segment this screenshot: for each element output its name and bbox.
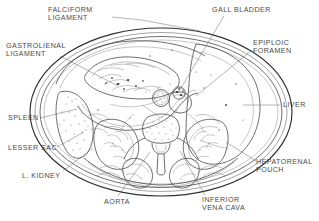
label-gastrolienal-ligament: GASTROLIENAL LIGAMENT [6,42,66,59]
leader-gall-bladder [178,16,224,93]
left-kidney [94,119,139,169]
leader-inferior-vena-cava [180,151,205,195]
label-inferior-vena-cava: INFERIOR VENA CAVA [202,196,245,213]
leader-gastrolienal-ligament [60,56,118,86]
label-liver: LIVER [283,101,306,109]
label-falciform-ligament: FALCIFORM LIGAMENT [48,6,93,23]
label-l-kidney: L. KIDNEY [22,172,60,180]
label-epiploic-foramen: EPIPLOIC FORAMEN [253,39,292,56]
anatomical-figure: FALCIFORM LIGAMENT GALL BLADDER GASTROLI… [0,0,319,221]
vertebra [124,114,198,175]
label-gall-bladder: GALL BLADDER [212,6,271,14]
liver-region [186,44,260,164]
spleen-organ [56,91,93,158]
leader-epiploic-foramen [196,50,252,96]
leader-spleen [40,109,77,118]
mesenteric-detail [121,71,205,132]
label-spleen: SPLEEN [8,114,39,122]
paraspinal-muscles [84,158,238,188]
right-kidney [183,119,228,169]
leader-hepatorenal-pouch [226,142,256,161]
label-aorta: AORTA [104,198,130,206]
leader-falciform-ligament [112,17,200,31]
label-lesser-sac: LESSER SAC [8,144,57,152]
label-hepatorenal-pouch: HEPATORENAL POUCH [256,158,313,175]
cross-section-drawing [0,0,319,221]
leader-lines [40,16,281,196]
